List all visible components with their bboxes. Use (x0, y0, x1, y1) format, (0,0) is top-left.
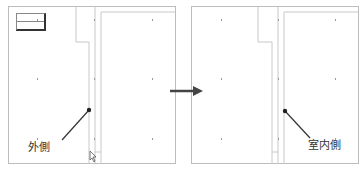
left-wall-lines (76, 7, 175, 165)
indoor-side-label: 室内側 (308, 136, 341, 152)
right-callout-leader (283, 109, 310, 138)
left-callout-leader (62, 108, 91, 140)
outside-label: 外側 (28, 138, 50, 154)
right-arrow-icon (170, 86, 203, 96)
diagram-drawing (0, 0, 363, 179)
